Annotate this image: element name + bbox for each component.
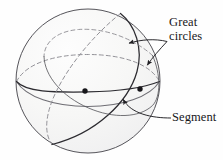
label-segment: Segment	[172, 111, 216, 124]
sphere-great-circles-figure: Great circles Segment	[0, 0, 223, 160]
label-great-circles-line1: Great	[169, 15, 197, 29]
segment-endpoint-right	[137, 86, 142, 91]
label-great-circles-line2: circles	[169, 30, 202, 43]
sphere-body	[16, 9, 160, 153]
label-great-circles: Great circles	[169, 16, 202, 43]
segment-endpoint-left	[82, 88, 87, 93]
